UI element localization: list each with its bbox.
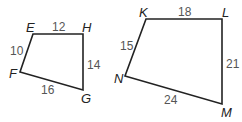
vertex-label-g: G xyxy=(81,91,91,106)
side-label-nk: 15 xyxy=(120,39,134,53)
side-label-eh: 12 xyxy=(52,20,66,34)
vertex-label-n: N xyxy=(114,71,124,86)
side-label-mn: 24 xyxy=(164,93,178,107)
side-label-fe: 10 xyxy=(10,44,24,58)
quadrilateral-efgh: E H G F 12 14 16 10 xyxy=(9,20,101,106)
side-label-gf: 16 xyxy=(41,83,55,97)
vertex-label-e: E xyxy=(26,20,35,35)
side-label-lm: 21 xyxy=(226,57,240,71)
vertex-label-l: L xyxy=(222,5,229,20)
side-label-hg: 14 xyxy=(87,58,101,72)
side-label-kl: 18 xyxy=(178,5,192,19)
vertex-label-f: F xyxy=(9,66,18,81)
polygon-klmn xyxy=(125,19,222,104)
vertex-label-k: K xyxy=(139,5,149,20)
polygon-efgh xyxy=(20,34,83,90)
quadrilateral-klmn: K L M N 18 21 24 15 xyxy=(114,5,240,120)
vertex-label-h: H xyxy=(82,20,92,35)
vertex-label-m: M xyxy=(221,105,232,120)
diagram-canvas: E H G F 12 14 16 10 K L M N 18 21 24 15 xyxy=(0,0,242,122)
